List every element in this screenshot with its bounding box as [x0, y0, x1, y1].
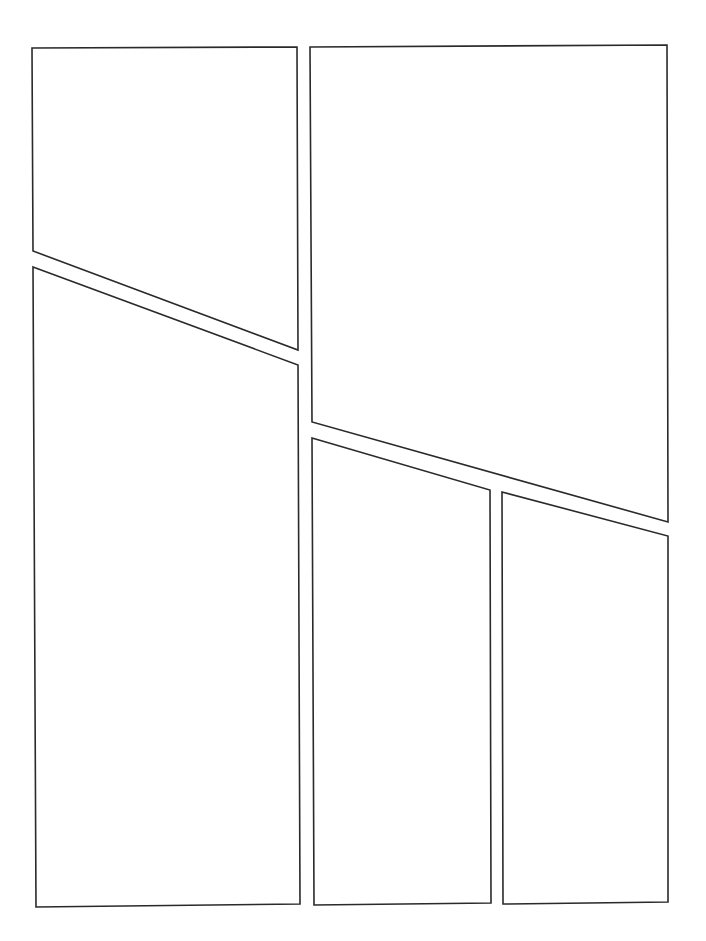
- panel-4-bottom-middle: [312, 438, 491, 905]
- comic-page-layout: [0, 0, 706, 941]
- panel-5-bottom-right: [502, 492, 668, 904]
- panel-3-bottom-left: [33, 267, 300, 907]
